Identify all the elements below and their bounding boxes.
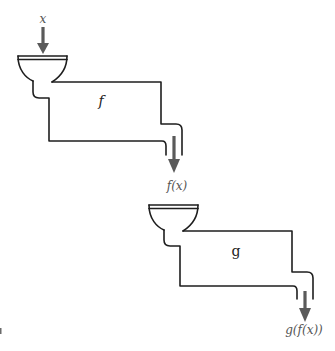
input-label-x: x (40, 12, 47, 26)
edge-mark (0, 328, 2, 334)
function-machine-f: x f f(x) (18, 12, 188, 193)
input-arrow-icon (37, 27, 49, 54)
funnel-icon (18, 56, 67, 82)
function-label-f: f (97, 93, 106, 109)
output-label-gfx: g(f(x)) (285, 323, 323, 337)
function-composition-diagram: x f f(x) (0, 0, 335, 351)
output-arrow-icon (168, 136, 180, 173)
machine-body-g-lower (164, 230, 297, 299)
function-machine-g: g g(f(x)) (149, 205, 323, 337)
machine-body-f (52, 82, 182, 155)
output-arrow-icon (299, 291, 311, 322)
function-label-g: g (232, 243, 241, 259)
output-label-fx: f(x) (166, 179, 188, 193)
machine-body-g (183, 231, 313, 299)
funnel-icon (149, 205, 198, 231)
